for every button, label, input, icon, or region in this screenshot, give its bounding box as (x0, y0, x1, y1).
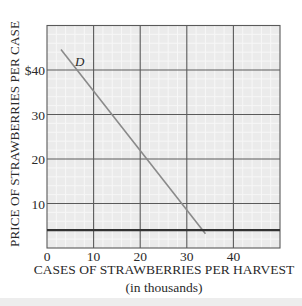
y-tick-label: 30 (32, 108, 46, 123)
bottom-strip (0, 298, 302, 306)
y-tick-label: 20 (32, 152, 46, 167)
y-tick-labels: 102030$40 (25, 63, 46, 212)
x-axis-subtitle: (in thousands) (126, 280, 203, 295)
y-tick-label: $40 (25, 63, 46, 78)
y-axis-title: PRICE OF STRAWBERRIES PER CASE (7, 21, 22, 247)
y-tick-label: 10 (32, 197, 46, 212)
demand-curve-label: D (74, 54, 85, 69)
x-axis-title: CASES OF STRAWBERRIES PER HARVEST (34, 262, 295, 277)
chart: 010203040 102030$40 D CASES OF STRAWBERR… (0, 0, 302, 306)
